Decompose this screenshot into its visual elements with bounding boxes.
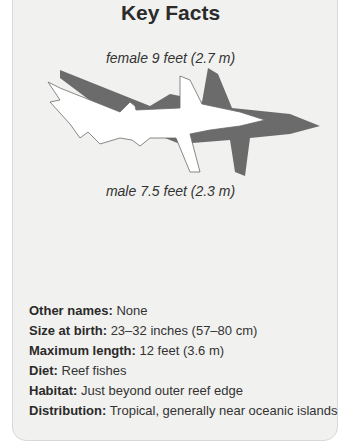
card-title: Key Facts [0, 0, 341, 26]
fact-habitat: Habitat: Just beyond outer reef edge [29, 381, 339, 401]
shark-silhouette-icon [40, 68, 330, 180]
facts-list: Other names: None Size at birth: 23–32 i… [29, 301, 339, 419]
fact-distribution: Distribution: Tropical, generally near o… [29, 403, 339, 419]
fact-other-names: Other names: None [29, 301, 339, 321]
fact-size-at-birth: Size at birth: 23–32 inches (57–80 cm) [29, 321, 339, 341]
male-size-caption: male 7.5 feet (2.3 m) [0, 183, 341, 199]
female-size-caption: female 9 feet (2.7 m) [0, 50, 341, 66]
fact-diet: Diet: Reef fishes [29, 361, 339, 381]
fact-maximum-length: Maximum length: 12 feet (3.6 m) [29, 341, 339, 361]
